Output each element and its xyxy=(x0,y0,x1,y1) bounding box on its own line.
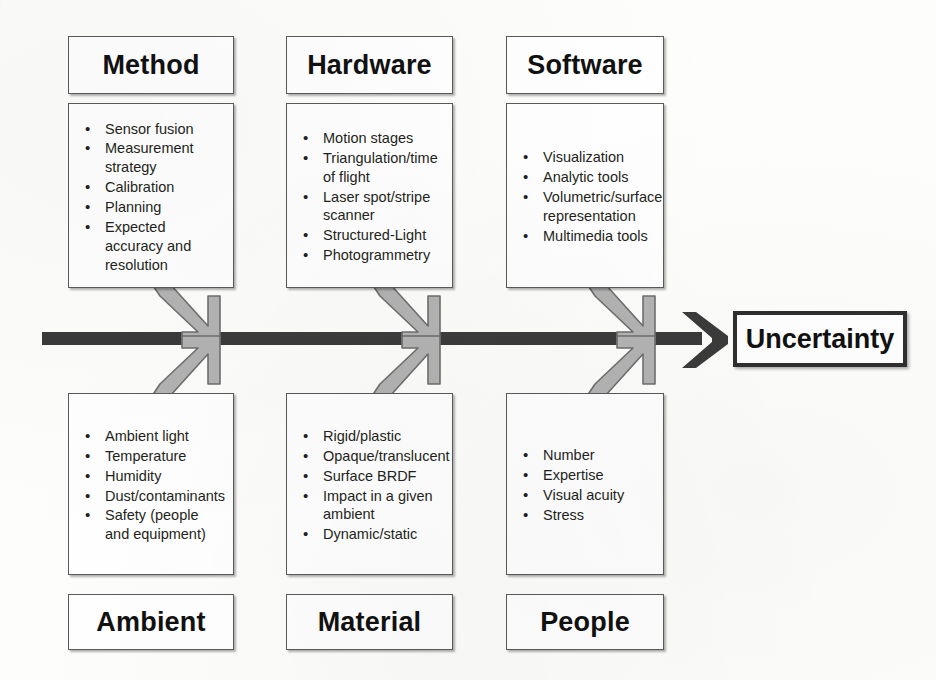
category-header-label: Ambient xyxy=(96,607,205,638)
list-item: Temperature xyxy=(79,447,223,466)
bone-arrow-up-right-icon xyxy=(152,336,220,396)
category-header-label: People xyxy=(540,607,630,638)
list-item: Surface BRDF xyxy=(297,467,442,486)
category-header-label: Hardware xyxy=(307,50,432,81)
list-item: Multimedia tools xyxy=(517,227,653,246)
list-item: Motion stages xyxy=(297,129,442,148)
causes-list: Motion stages Triangulation/time of flig… xyxy=(297,129,442,266)
list-item: Dynamic/static xyxy=(297,525,442,544)
causes-box-material: Rigid/plastic Opaque/translucent Surface… xyxy=(286,393,453,575)
bone-arrow-up-right-icon xyxy=(587,336,655,396)
causes-list: Ambient light Temperature Humidity Dust/… xyxy=(79,427,223,545)
bone-arrow-down-right-icon xyxy=(152,284,220,344)
list-item: Calibration xyxy=(79,178,223,197)
causes-list: Rigid/plastic Opaque/translucent Surface… xyxy=(297,427,442,545)
list-item: Analytic tools xyxy=(517,168,653,187)
causes-box-method: Sensor fusion Measurement strategy Calib… xyxy=(68,103,234,288)
causes-box-ambient: Ambient light Temperature Humidity Dust/… xyxy=(68,393,234,575)
bone-arrow-up-right-icon xyxy=(372,336,440,396)
bone-arrow-down-right-icon xyxy=(372,284,440,344)
category-header-hardware: Hardware xyxy=(286,36,453,94)
category-header-label: Method xyxy=(102,50,199,81)
list-item: Stress xyxy=(517,506,653,525)
causes-list: Visualization Analytic tools Volumetric/… xyxy=(517,148,653,246)
list-item: Dust/contaminants xyxy=(79,487,223,506)
effect-box-uncertainty: Uncertainty xyxy=(733,311,907,367)
bone-arrow-pair-hardware-material xyxy=(350,282,460,398)
list-item: Photogrammetry xyxy=(297,246,442,265)
bone-arrow-pair-method-ambient xyxy=(130,282,240,398)
list-item: Number xyxy=(517,446,653,465)
list-item: Rigid/plastic xyxy=(297,427,442,446)
category-header-label: Software xyxy=(527,50,643,81)
bone-arrow-down-right-icon xyxy=(587,284,655,344)
list-item: Ambient light xyxy=(79,427,223,446)
category-header-people: People xyxy=(506,594,664,650)
list-item: Visual acuity xyxy=(517,486,653,505)
causes-box-software: Visualization Analytic tools Volumetric/… xyxy=(506,103,664,288)
category-header-ambient: Ambient xyxy=(68,594,234,650)
category-header-label: Material xyxy=(318,607,422,638)
causes-box-hardware: Motion stages Triangulation/time of flig… xyxy=(286,103,453,288)
category-header-software: Software xyxy=(506,36,664,94)
list-item: Volumetric/surface representation xyxy=(517,188,653,226)
causes-list: Number Expertise Visual acuity Stress xyxy=(517,446,653,525)
bone-arrow-pair-software-people xyxy=(565,282,675,398)
list-item: Sensor fusion xyxy=(79,120,223,139)
list-item: Planning xyxy=(79,198,223,217)
effect-label: Uncertainty xyxy=(746,324,895,355)
list-item: Visualization xyxy=(517,148,653,167)
category-header-material: Material xyxy=(286,594,453,650)
causes-list: Sensor fusion Measurement strategy Calib… xyxy=(79,120,223,276)
list-item: Humidity xyxy=(79,467,223,486)
list-item: Expected accuracy and resolution xyxy=(79,218,223,275)
list-item: Safety (people and equipment) xyxy=(79,506,223,544)
spine-arrowhead-icon xyxy=(676,308,736,370)
list-item: Laser spot/stripe scanner xyxy=(297,188,442,226)
list-item: Structured-Light xyxy=(297,226,442,245)
list-item: Opaque/translucent xyxy=(297,447,442,466)
list-item: Triangulation/time of flight xyxy=(297,149,442,187)
list-item: Expertise xyxy=(517,466,653,485)
category-header-method: Method xyxy=(68,36,234,94)
list-item: Impact in a given ambient xyxy=(297,487,442,525)
causes-box-people: Number Expertise Visual acuity Stress xyxy=(506,393,664,575)
list-item: Measurement strategy xyxy=(79,139,223,177)
fishbone-diagram-canvas: Method Hardware Software Sensor fusion M… xyxy=(0,0,936,680)
